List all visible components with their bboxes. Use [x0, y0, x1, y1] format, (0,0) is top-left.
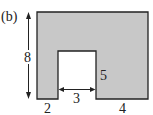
- figure-label: (b): [1, 9, 18, 25]
- notch-height-value: 5: [100, 68, 107, 83]
- notch-width-value: 3: [73, 91, 80, 106]
- height-value: 8: [24, 50, 31, 65]
- right-base-value: 4: [119, 101, 126, 115]
- left-base-value: 2: [44, 101, 51, 115]
- figure-diagram: (b) 8 3 5 2 4: [0, 0, 153, 115]
- notched-rectangle: [37, 12, 148, 99]
